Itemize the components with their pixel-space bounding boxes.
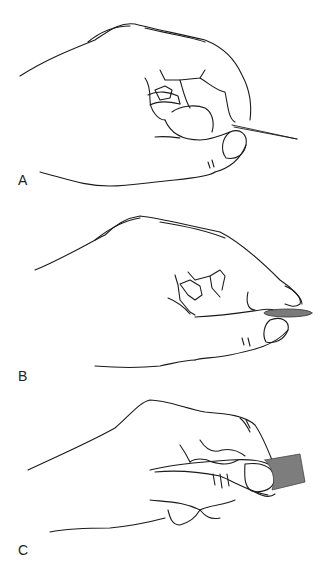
panel-label-c: C [18,542,28,558]
thumb [245,464,275,493]
coin [264,309,312,317]
thumb [223,131,247,159]
hand-outline-top [35,216,302,304]
hand-outline-top [20,24,251,120]
panel-c: C [0,370,327,567]
thumb [264,318,288,342]
panel-a: A [0,0,327,190]
fingers [145,78,165,120]
hand-block-illustration [0,370,327,567]
hand-outline-bottom [95,360,195,368]
panel-b: B [0,180,327,370]
flat-block [265,454,305,490]
hand-outline-bottom [50,518,165,532]
hand-needle-illustration [0,0,327,190]
hand-coin-illustration [0,180,327,370]
fingers [180,445,190,462]
